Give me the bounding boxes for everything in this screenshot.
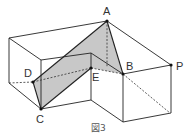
label-b: B — [126, 61, 133, 72]
point-e-dot — [89, 66, 92, 69]
point-c-dot — [39, 107, 42, 110]
figure-caption: 図3 — [91, 124, 106, 133]
label-c: C — [36, 114, 44, 125]
label-d: D — [24, 68, 32, 79]
point-b-dot — [121, 72, 124, 75]
label-a: A — [103, 6, 110, 17]
point-d-dot — [31, 80, 34, 83]
label-e: E — [92, 72, 99, 83]
point-a-dot — [105, 19, 108, 22]
point-p-dot — [169, 63, 172, 66]
label-p: P — [176, 61, 183, 72]
